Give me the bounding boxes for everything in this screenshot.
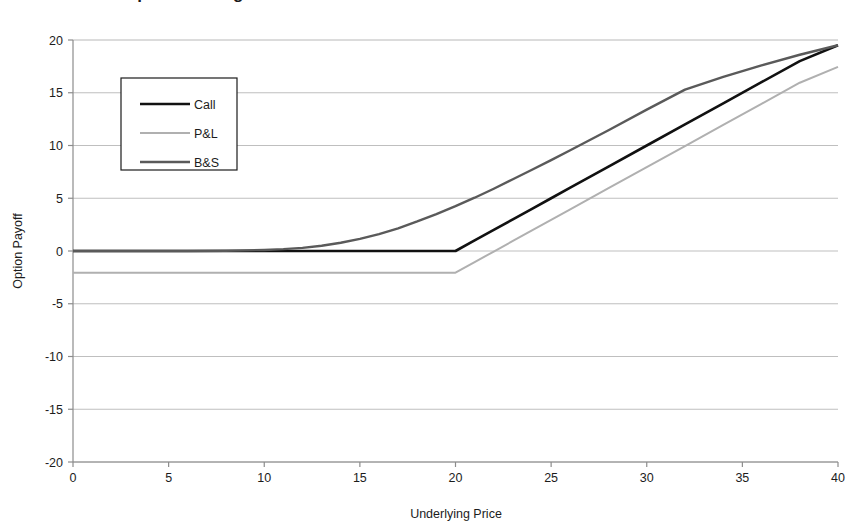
- y-tick-label: 20: [49, 34, 63, 48]
- x-tick-label: 10: [257, 471, 271, 485]
- x-tick-label: 20: [449, 471, 463, 485]
- y-tick-label: 0: [56, 245, 63, 259]
- x-tick-label: 5: [165, 471, 172, 485]
- y-tick-label: -20: [45, 456, 63, 470]
- y-tick-label: -10: [45, 350, 63, 364]
- y-tick-label: 5: [56, 192, 63, 206]
- y-axis-ticks: [68, 40, 73, 462]
- y-axis-title: Option Payoff: [11, 213, 25, 289]
- x-axis-title: Underlying Price: [410, 507, 502, 521]
- legend-label-bs: B&S: [194, 156, 219, 170]
- legend-box: [121, 78, 237, 170]
- chart-container: Black-Scholes Option Pricing Model 20151…: [0, 0, 849, 532]
- y-tick-label: -5: [52, 297, 63, 311]
- y-axis-tick-labels: 20151050-5-10-15-20: [45, 34, 63, 470]
- x-tick-label: 15: [353, 471, 367, 485]
- legend-label-call: Call: [194, 98, 216, 112]
- x-tick-label: 35: [735, 471, 749, 485]
- x-axis-ticks: [73, 462, 838, 467]
- legend-label-pl: P&L: [194, 127, 218, 141]
- x-tick-label: 25: [544, 471, 558, 485]
- line-chart-plot: 20151050-5-10-15-20 0510152025303540 Opt…: [0, 0, 849, 532]
- x-axis-tick-labels: 0510152025303540: [70, 471, 845, 485]
- y-tick-label: 10: [49, 139, 63, 153]
- chart-legend: CallP&LB&S: [121, 78, 237, 170]
- x-tick-label: 0: [70, 471, 77, 485]
- x-tick-label: 40: [831, 471, 845, 485]
- y-tick-label: 15: [49, 86, 63, 100]
- x-tick-label: 30: [640, 471, 654, 485]
- y-tick-label: -15: [45, 403, 63, 417]
